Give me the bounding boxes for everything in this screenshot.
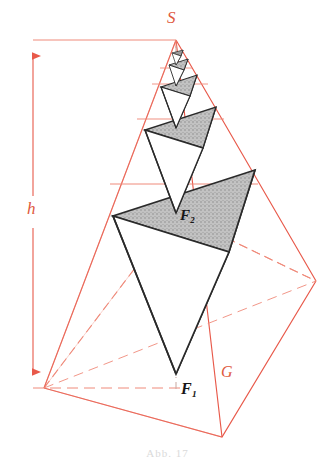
label-apex-S: S: [167, 9, 176, 26]
tetrahedron-level-1: [113, 170, 255, 374]
figure-caption: Abb. 17: [0, 447, 335, 459]
label-vertex-F2: F₂: [180, 208, 195, 223]
geometry-figure: S h F₁ F₂ G Abb. 17: [0, 0, 335, 466]
label-height-h: h: [27, 200, 36, 217]
label-base-G: G: [221, 364, 233, 380]
label-vertex-F1: F₁: [181, 381, 197, 397]
figure-canvas: [0, 0, 335, 466]
